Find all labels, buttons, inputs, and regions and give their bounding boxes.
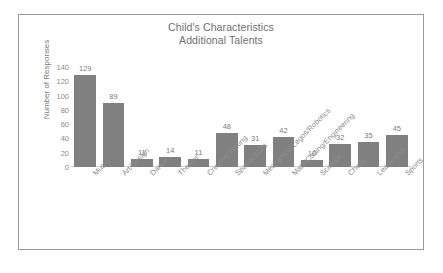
plot-area: 1298911141148314210323545 <box>71 67 411 167</box>
bar-column[interactable]: 35 <box>354 67 382 167</box>
x-axis-tick-label: Sports <box>403 171 409 177</box>
bar-value-label: 48 <box>213 123 241 131</box>
x-axis-tick-label: Theater <box>176 171 182 177</box>
x-axis-tick-label: Chess <box>346 171 352 177</box>
bar-value-label: 45 <box>383 125 411 133</box>
y-axis-tick-60: 60 <box>61 121 69 128</box>
y-axis-tick-100: 100 <box>56 92 69 99</box>
y-axis-tick-labels: 140120100806040200 <box>47 67 69 167</box>
plot-wrapper: Number of Responses 140120100806040200 1… <box>19 15 423 249</box>
bar-value-label: 129 <box>71 65 99 73</box>
x-axis-tick-label: Art/Design <box>120 171 126 177</box>
y-axis-tick-40: 40 <box>61 135 69 142</box>
chart-container: Child's Characteristics Additional Talen… <box>18 14 424 250</box>
x-axis-tick-label: Math/Coding/Engineering <box>290 171 296 177</box>
bar-value-label: 89 <box>99 93 127 101</box>
bar-value-label: 14 <box>156 147 184 155</box>
bar-value-label: 42 <box>269 127 297 135</box>
x-axis-tick-label: Creative Writing <box>205 171 211 177</box>
x-axis-tick-label: Music <box>91 171 97 177</box>
x-axis-tick-label: Spatial Skills <box>233 171 239 177</box>
x-axis-tick-label: Leadership <box>375 171 381 177</box>
y-axis-tick-140: 140 <box>56 64 69 71</box>
bar[interactable] <box>74 75 96 167</box>
y-axis-tick-120: 120 <box>56 78 69 85</box>
y-axis-tick-80: 80 <box>61 106 69 113</box>
bar-column[interactable]: 11 <box>184 67 212 167</box>
bar-column[interactable]: 14 <box>156 67 184 167</box>
y-axis-tick-0: 0 <box>65 164 69 171</box>
y-axis-tick-20: 20 <box>61 149 69 156</box>
x-axis-tick-label: Science <box>318 171 324 177</box>
x-axis-tick-labels: MusicArt/DesignDanceTheaterCreative Writ… <box>71 169 411 247</box>
x-axis-tick-label: Mechanical/Legos/Robotics <box>261 171 267 177</box>
x-axis-tick-label: Dance <box>148 171 154 177</box>
bar-column[interactable]: 89 <box>99 67 127 167</box>
bar-value-label: 35 <box>354 132 382 140</box>
bar-column[interactable]: 129 <box>71 67 99 167</box>
